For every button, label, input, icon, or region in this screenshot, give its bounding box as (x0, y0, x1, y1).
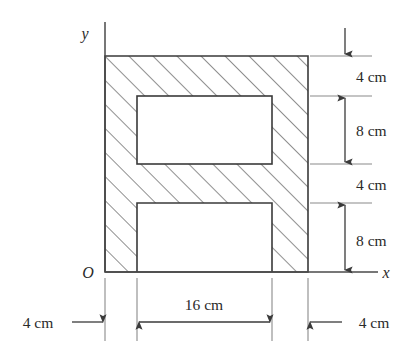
x-axis-label: x (381, 264, 389, 281)
origin-label: O (82, 264, 94, 281)
dim-label-right-wall: 4 cm (359, 314, 390, 331)
dimension-diagram: y x O 4 cm 8 cm 4 cm 8 cm (0, 0, 414, 359)
figure-canvas: y x O 4 cm 8 cm 4 cm 8 cm (0, 0, 414, 359)
dim-label-left-wall: 4 cm (23, 314, 54, 331)
y-axis-label: y (79, 25, 89, 43)
dim-label-top-flange: 4 cm (356, 68, 387, 85)
dim-label-web: 4 cm (356, 176, 387, 193)
dim-label-upper-opening: 8 cm (356, 122, 387, 139)
upper-void-outline (137, 96, 272, 164)
dim-label-lower-opening: 8 cm (356, 232, 387, 249)
cross-section-body (105, 56, 308, 272)
lower-void-outline (137, 203, 272, 272)
dim-label-opening-width: 16 cm (185, 296, 223, 313)
vertical-dimension-labels: 4 cm 8 cm 4 cm 8 cm (356, 68, 387, 249)
horizontal-dimension-labels: 4 cm 16 cm 4 cm (23, 296, 390, 331)
